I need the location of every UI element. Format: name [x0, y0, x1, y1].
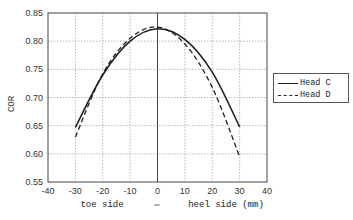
y-tick-label: 0.70	[25, 93, 43, 103]
x-tick-label: 20	[207, 186, 217, 196]
cor-line-chart: 0.550.600.650.700.750.800.85 -40-30-20-1…	[0, 0, 353, 220]
y-tick-label: 0.55	[25, 177, 43, 187]
x-axis-ticks: -40-30-20-10010203040	[41, 186, 272, 196]
dashed-line-swatch-icon	[278, 95, 298, 96]
x-tick-label: 40	[262, 186, 272, 196]
x-axis-label-toe: toe side	[80, 200, 123, 210]
y-tick-label: 0.85	[25, 8, 43, 18]
legend-label: Head D	[300, 90, 331, 100]
y-tick-label: 0.75	[25, 64, 43, 74]
x-tick-label: -20	[96, 186, 109, 196]
x-axis-label-heel: heel side (mm)	[188, 200, 264, 210]
x-tick-label: 10	[180, 186, 190, 196]
y-axis-label: COR	[7, 95, 17, 112]
legend-item-head-c: Head C	[278, 77, 331, 89]
x-tick-label: -30	[69, 186, 82, 196]
x-axis-label-arrow: ⇔	[154, 200, 160, 210]
y-tick-label: 0.60	[25, 149, 43, 159]
legend-label: Head C	[300, 78, 331, 88]
solid-line-swatch-icon	[278, 83, 298, 84]
y-tick-label: 0.80	[25, 36, 43, 46]
x-tick-label: 30	[235, 186, 245, 196]
x-tick-label: 0	[155, 186, 160, 196]
legend-item-head-d: Head D	[278, 89, 331, 101]
x-tick-label: -40	[41, 186, 54, 196]
legend: Head C Head D	[273, 73, 349, 103]
y-axis-ticks: 0.550.600.650.700.750.800.85	[25, 8, 43, 187]
grid-lines	[48, 13, 267, 182]
x-tick-label: -10	[124, 186, 137, 196]
y-tick-label: 0.65	[25, 121, 43, 131]
